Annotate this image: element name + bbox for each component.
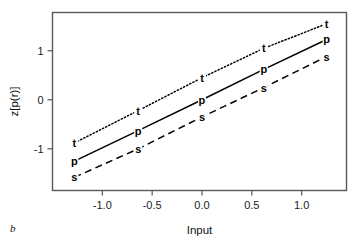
data-point-marker-s: s [261, 82, 267, 94]
x-tick-label: -1.0 [93, 199, 112, 211]
x-tick-label: 1.0 [294, 199, 309, 211]
chart-canvas: -1.0-0.50.00.51.0-101Inputz[p(r)]tttttpp… [0, 0, 364, 249]
y-axis-title: z[p(r)] [8, 86, 20, 116]
y-tick-label: 1 [37, 45, 43, 57]
data-point-marker-s: s [71, 171, 77, 183]
x-tick-label: -0.5 [143, 199, 162, 211]
data-point-marker-p: p [260, 63, 267, 75]
figure-panel: -1.0-0.50.00.51.0-101Inputz[p(r)]tttttpp… [0, 0, 364, 249]
data-point-marker-p: p [135, 125, 142, 137]
data-point-marker-t: t [325, 18, 329, 30]
data-point-marker-s: s [135, 143, 141, 155]
x-axis-title: Input [187, 224, 213, 236]
panel-label: b [10, 222, 16, 234]
y-tick-label: 0 [37, 94, 43, 106]
x-tick-label: 0.0 [194, 199, 209, 211]
data-point-marker-t: t [262, 42, 266, 54]
data-point-marker-p: p [71, 155, 78, 167]
data-point-marker-t: t [136, 105, 140, 117]
y-tick-label: -1 [34, 143, 44, 155]
x-tick-label: 0.5 [244, 199, 259, 211]
data-point-marker-p: p [323, 33, 330, 45]
data-point-marker-t: t [200, 72, 204, 84]
data-point-marker-s: s [324, 51, 330, 63]
data-point-marker-t: t [73, 137, 77, 149]
data-point-marker-s: s [199, 111, 205, 123]
data-point-marker-p: p [199, 94, 206, 106]
